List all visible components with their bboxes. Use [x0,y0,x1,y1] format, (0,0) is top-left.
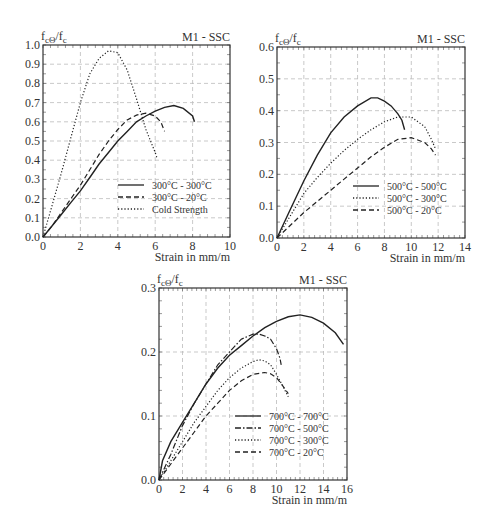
x-axis-label: Strain in mm/m [272,493,348,507]
y-tick-label: 0.4 [259,104,274,118]
y-tick-label: 0.1 [259,199,274,213]
y-tick-label: 0.1 [25,211,40,225]
y-tick-label: 0.2 [141,345,156,359]
y-axis-label: fcΘ/fc [275,31,301,47]
legend-label: 700°C - 20°C [269,447,324,458]
y-tick-label: 0.3 [259,136,274,150]
legend-label: 700°C - 700°C [269,411,329,422]
series-line [277,117,436,238]
x-tick-label: 4 [328,240,334,254]
series-line [43,106,195,238]
series-line [159,334,281,480]
legend-label: 700°C - 300°C [269,435,329,446]
figure-canvas: 02468100.00.10.20.30.40.50.60.70.80.91.0… [0,0,498,527]
legend: 300°C - 300°C300°C - 20°CCold Strength [118,180,212,215]
x-tick-label: 6 [227,482,233,496]
y-axis-label: fcΘ/fc [41,29,67,45]
legend-label: 500°C - 300°C [387,193,447,204]
y-tick-label: 0.3 [25,172,40,186]
x-tick-label: 0 [274,240,280,254]
x-tick-label: 2 [77,239,83,253]
y-axis-label: fcΘ/fc [157,272,183,288]
y-tick-label: 0.0 [141,473,156,487]
legend-label: 300°C - 20°C [152,192,207,203]
chart-700c: 02468101214160.00.10.20.3fcΘ/fcM1 - SSCS… [141,272,353,507]
y-tick-label: 0.3 [141,281,156,295]
x-tick-label: 2 [180,482,186,496]
y-tick-label: 0.9 [25,57,40,71]
y-tick-label: 0.5 [25,134,40,148]
legend-label: 700°C - 500°C [269,423,329,434]
y-tick-label: 1.0 [25,38,40,52]
x-tick-label: 0 [40,239,46,253]
chart-title: M1 - SSC [417,32,465,46]
x-axis-label: Strain in mm/m [155,250,231,264]
x-tick-label: 0 [156,482,162,496]
legend-label: 300°C - 300°C [152,180,212,191]
chart-title: M1 - SSC [299,273,347,287]
y-tick-label: 0.0 [25,230,40,244]
chart-title: M1 - SSC [182,30,230,44]
x-tick-label: 8 [250,482,256,496]
y-tick-label: 0.0 [259,231,274,245]
x-tick-label: 8 [381,240,387,254]
y-tick-label: 0.6 [259,40,274,54]
y-tick-label: 0.8 [25,76,40,90]
x-tick-label: 4 [203,482,209,496]
y-tick-label: 0.6 [25,115,40,129]
y-tick-label: 0.4 [25,153,40,167]
y-tick-label: 0.2 [259,167,274,181]
series-line [277,98,405,238]
x-tick-label: 2 [301,240,307,254]
y-tick-label: 0.1 [141,409,156,423]
legend: 500°C - 500°C500°C - 300°C500°C - 20°C [353,181,447,216]
chart-500c: 024681012140.00.10.20.30.40.50.6fcΘ/fcM1… [259,31,471,265]
legend: 700°C - 700°C700°C - 500°C700°C - 300°C7… [235,411,329,458]
x-tick-label: 6 [355,240,361,254]
legend-label: 500°C - 500°C [387,181,447,192]
y-tick-label: 0.2 [25,192,40,206]
legend-label: Cold Strength [152,204,208,215]
x-axis-label: Strain in mm/m [390,251,466,265]
x-tick-label: 4 [115,239,121,253]
chart-300c: 02468100.00.10.20.30.40.50.60.70.80.91.0… [25,29,236,264]
y-tick-label: 0.7 [25,96,40,110]
series-line [43,51,157,237]
legend-label: 500°C - 20°C [387,205,442,216]
y-tick-label: 0.5 [259,72,274,86]
